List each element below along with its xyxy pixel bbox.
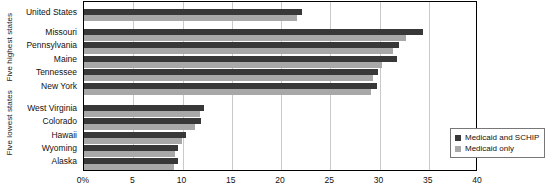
bar	[84, 62, 382, 68]
category-label: Alaska	[51, 156, 77, 166]
x-tick-label: 5	[130, 175, 135, 185]
x-tick-label: 35	[423, 175, 432, 185]
group-label-five-highest: Five highest states	[0, 24, 18, 94]
bar	[84, 89, 371, 95]
category-label: West Virginia	[27, 103, 77, 113]
bar	[84, 151, 175, 157]
legend-label-medicaid-and-schip: Medicaid and SCHIP	[465, 133, 539, 142]
plot-area: Medicaid and SCHIP Medicaid only	[83, 1, 477, 171]
legend-item-medicaid-and-schip: Medicaid and SCHIP	[455, 132, 539, 143]
legend-item-medicaid-only: Medicaid only	[455, 143, 539, 154]
chart-legend: Medicaid and SCHIP Medicaid only	[450, 128, 545, 158]
bar	[84, 48, 393, 54]
category-label: Pennsylvania	[26, 40, 77, 50]
x-tick-label: 0%	[77, 175, 89, 185]
bar	[84, 111, 200, 117]
x-tick-label: 30	[374, 175, 383, 185]
bar	[84, 35, 406, 41]
group-label-five-highest-text: Five highest states	[5, 28, 14, 82]
x-tick-label: 20	[275, 175, 284, 185]
x-tick-label: 15	[226, 175, 235, 185]
x-tick-label: 40	[472, 175, 481, 185]
category-label: Wyoming	[42, 143, 77, 153]
legend-label-medicaid-only: Medicaid only	[465, 144, 514, 153]
group-label-five-lowest: Five lowest states	[0, 97, 18, 169]
category-label: Tennessee	[36, 67, 77, 77]
legend-swatch-icon-medicaid-and-schip	[455, 135, 461, 141]
category-label: New York	[41, 81, 77, 91]
category-axis-labels: United StatesMissouriPennsylvaniaMaineTe…	[18, 0, 80, 171]
category-label: Hawaii	[51, 130, 77, 140]
category-label: Missouri	[45, 27, 77, 37]
gridline	[380, 2, 381, 170]
group-label-five-lowest-text: Five lowest states	[5, 102, 14, 156]
category-label: Colorado	[43, 116, 78, 126]
bar	[84, 164, 174, 170]
x-tick-label: 10	[177, 175, 186, 185]
category-label: Maine	[54, 54, 77, 64]
bar	[84, 75, 373, 81]
x-tick-label: 25	[325, 175, 334, 185]
bar	[84, 124, 195, 130]
legend-swatch-icon-medicaid-only	[455, 146, 461, 152]
bar	[84, 138, 182, 144]
x-axis: 0%510152025303540	[83, 171, 477, 191]
bar	[84, 15, 297, 21]
gridline	[429, 2, 430, 170]
category-label: United States	[26, 7, 77, 17]
